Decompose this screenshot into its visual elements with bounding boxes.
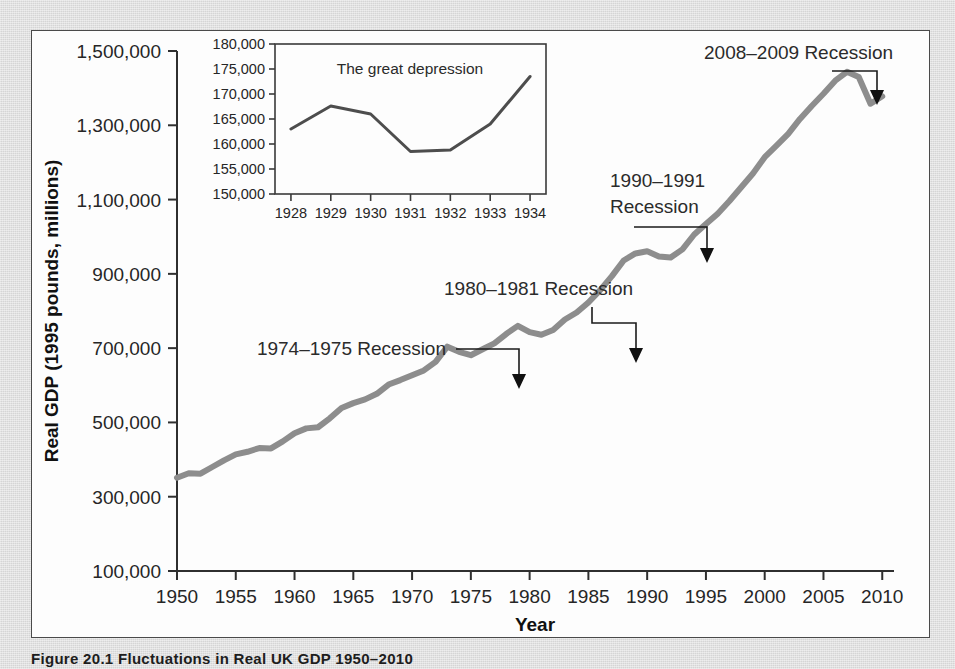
x-tick-label: 2010 <box>861 586 903 607</box>
y-tick-label: 1,100,000 <box>76 190 161 211</box>
figure-caption: Figure 20.1 Fluctuations in Real UK GDP … <box>31 650 930 667</box>
y-tick-label: 1,500,000 <box>76 41 161 62</box>
inset-y-tick-label: 155,000 <box>213 161 265 177</box>
x-tick-label: 1980 <box>508 586 550 607</box>
x-tick-label: 1965 <box>332 586 374 607</box>
x-tick-label: 1985 <box>567 586 609 607</box>
figure-panel: 100,000300,000500,000700,000900,0001,100… <box>31 30 930 638</box>
inset-x-tick-label: 1928 <box>275 205 307 221</box>
y-tick-label: 300,000 <box>92 487 161 508</box>
x-tick-label: 1995 <box>685 586 727 607</box>
y-tick-label: 900,000 <box>92 264 161 285</box>
x-axis-title: Year <box>515 614 556 635</box>
annotation-label-1980-1981: 1980–1981 Recession <box>444 278 633 299</box>
main-y-axis: 100,000300,000500,000700,000900,0001,100… <box>76 41 177 582</box>
inset-x-tick-label: 1931 <box>394 205 426 221</box>
annotation-label-1990-1991-line2: Recession <box>610 196 699 217</box>
inset-chart-title: The great depression <box>337 60 483 77</box>
inset-x-tick-label: 1934 <box>514 205 546 221</box>
inset-x-tick-label: 1932 <box>434 205 466 221</box>
gdp-series-line <box>177 72 882 478</box>
inset-x-tick-label: 1933 <box>474 205 506 221</box>
inset-y-tick-label: 160,000 <box>213 136 265 152</box>
y-tick-label: 1,300,000 <box>76 115 161 136</box>
inset-y-tick-label: 180,000 <box>213 36 265 52</box>
x-tick-label: 1960 <box>273 586 315 607</box>
x-tick-label: 1970 <box>391 586 433 607</box>
y-tick-label: 100,000 <box>92 561 161 582</box>
inset-series-line <box>291 77 530 152</box>
inset-x-tick-label: 1930 <box>355 205 387 221</box>
inset-y-tick-label: 175,000 <box>213 61 265 77</box>
inset-y-tick-label: 165,000 <box>213 111 265 127</box>
y-tick-label: 500,000 <box>92 412 161 433</box>
inset-y-tick-label: 170,000 <box>213 86 265 102</box>
inset-chart-great-depression: 150,000155,000160,000165,000170,000175,0… <box>213 36 547 221</box>
x-tick-label: 1975 <box>450 586 492 607</box>
x-tick-label: 2000 <box>744 586 786 607</box>
x-tick-label: 1955 <box>215 586 257 607</box>
inset-x-tick-label: 1929 <box>315 205 347 221</box>
x-tick-label: 2005 <box>802 586 844 607</box>
x-tick-label: 1950 <box>156 586 198 607</box>
inset-y-tick-label: 150,000 <box>213 186 265 202</box>
annotation-label-2008-2009: 2008–2009 Recession <box>704 42 893 63</box>
annotation-1980-1981: 1980–1981 Recession <box>444 278 643 363</box>
annotation-label-1974-1975: 1974–1975 Recession <box>257 338 446 359</box>
x-tick-label: 1990 <box>626 586 668 607</box>
y-axis-title: Real GDP (1995 pounds, millions) <box>41 160 62 463</box>
main-x-axis: 1950195519601965197019751980198519901995… <box>156 571 904 607</box>
y-tick-label: 700,000 <box>92 338 161 359</box>
gdp-line-chart: 100,000300,000500,000700,000900,0001,100… <box>32 31 928 636</box>
annotation-label-1990-1991-line1: 1990–1991 <box>610 170 705 191</box>
annotation-1990-1991: 1990–1991 Recession <box>610 170 714 263</box>
